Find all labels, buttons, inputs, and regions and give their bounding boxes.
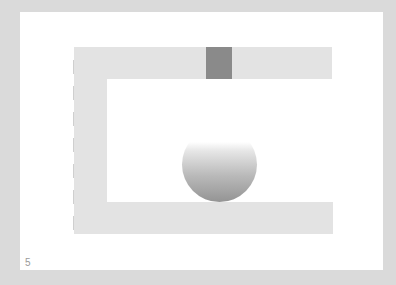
- bottom-wall: [74, 202, 333, 234]
- level-number: 5: [25, 257, 31, 268]
- dashed-wall-edge: [73, 60, 74, 230]
- ball[interactable]: [182, 127, 257, 202]
- top-wall: [74, 47, 332, 79]
- movable-block[interactable]: [206, 47, 232, 79]
